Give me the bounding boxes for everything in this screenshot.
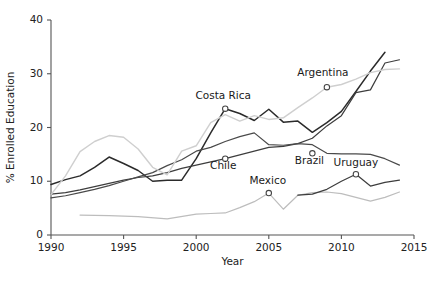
y-tick-label: 30: [30, 67, 43, 79]
x-tick-label: 2015: [401, 241, 428, 253]
annotation-marker-uruguay: [353, 172, 358, 177]
series-line-mexico: [80, 192, 399, 219]
y-tick-label: 20: [30, 121, 43, 133]
chart-container: 010203040199019952000200520102015 Argent…: [0, 0, 428, 283]
annotation-marker-costa-rica: [223, 106, 228, 111]
x-tick-label: 1990: [38, 241, 65, 253]
series-line-chile: [51, 60, 399, 194]
annotation-marker-mexico: [266, 190, 271, 195]
x-tick-label: 1995: [110, 241, 137, 253]
x-axis-title: Year: [220, 255, 244, 267]
x-tick-label: 2005: [255, 241, 282, 253]
x-tick-label: 2000: [183, 241, 210, 253]
x-tick-label: 2010: [328, 241, 355, 253]
annotation-label-chile: Chile: [210, 159, 236, 171]
annotation-marker-argentina: [324, 84, 329, 89]
annotation-label-brazil: Brazil: [295, 154, 324, 166]
annotation-label-uruguay: Uruguay: [334, 156, 379, 168]
annotation-label-costa-rica: Costa Rica: [195, 89, 251, 101]
axis-layer: 010203040199019952000200520102015: [30, 13, 428, 253]
y-tick-label: 10: [30, 174, 43, 186]
line-chart-plot: 010203040199019952000200520102015 Argent…: [0, 0, 428, 283]
annotation-label-argentina: Argentina: [297, 66, 348, 78]
y-tick-label: 0: [36, 228, 43, 240]
annotation-label-mexico: Mexico: [249, 174, 286, 186]
y-axis-title: % Enrolled Education: [4, 72, 16, 184]
y-tick-label: 40: [30, 13, 43, 25]
